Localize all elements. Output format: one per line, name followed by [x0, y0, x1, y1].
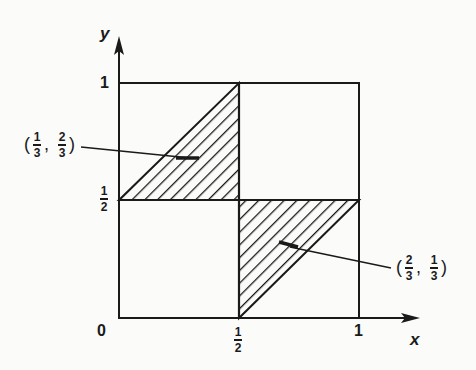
x-tick-half-num: 1	[235, 326, 242, 338]
y-tick-half: 1 2	[100, 185, 108, 213]
point-a-x-den: 3	[34, 147, 41, 159]
point-a-label: ( 13 , 23 )	[24, 131, 75, 159]
y-tick-half-num: 1	[101, 185, 108, 197]
paren-close: )	[441, 257, 447, 278]
leader-line-b	[290, 247, 391, 268]
point-b-y-num: 1	[431, 254, 438, 266]
point-b-y-den: 3	[431, 270, 438, 282]
shaded-triangle-lower-right	[239, 200, 359, 318]
paren-open: (	[396, 257, 402, 278]
x-axis-label: x	[410, 330, 419, 350]
paren-open: (	[24, 134, 30, 155]
point-a-x-num: 1	[34, 131, 41, 143]
point-a-y-num: 2	[59, 131, 66, 143]
paren-close: )	[69, 134, 75, 155]
x-tick-1: 1	[354, 322, 363, 340]
comma: ,	[44, 134, 49, 155]
x-tick-half-den: 2	[235, 342, 242, 354]
point-b-x-num: 2	[406, 254, 413, 266]
y-tick-half-den: 2	[101, 201, 108, 213]
origin-label: 0	[97, 322, 106, 340]
x-tick-half: 1 2	[234, 326, 242, 354]
diagram-canvas	[0, 0, 476, 370]
y-tick-1: 1	[100, 74, 109, 92]
comma: ,	[416, 257, 421, 278]
point-b-label: ( 23 , 13 )	[396, 254, 447, 282]
y-axis-label: y	[100, 24, 109, 44]
point-a-y-den: 3	[59, 147, 66, 159]
point-b-x-den: 3	[406, 270, 413, 282]
shaded-triangle-upper-left	[119, 83, 239, 200]
